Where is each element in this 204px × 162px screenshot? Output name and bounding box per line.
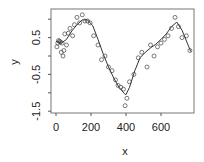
smooth-fit-line	[56, 20, 191, 95]
data-point	[125, 96, 129, 100]
data-point	[140, 50, 144, 54]
y-axis-label: y	[8, 59, 20, 65]
data-point	[61, 54, 65, 58]
data-point	[68, 26, 72, 30]
data-point	[75, 15, 79, 19]
data-point	[156, 45, 160, 49]
x-tick-label: 400	[117, 121, 135, 133]
data-point	[163, 37, 167, 41]
data-point	[100, 58, 104, 62]
data-point	[55, 45, 59, 49]
data-point	[123, 104, 127, 108]
data-point	[173, 15, 177, 19]
data-point	[71, 34, 75, 38]
x-tick-label: 200	[82, 121, 100, 133]
data-point	[72, 23, 76, 27]
data-point	[96, 43, 100, 47]
y-tick-label: 0.5	[30, 30, 42, 45]
data-point	[92, 34, 96, 38]
y-tick-label: -0.5	[30, 65, 42, 84]
data-point	[159, 41, 163, 45]
data-point	[80, 13, 84, 17]
data-point	[149, 43, 153, 47]
data-point	[152, 54, 156, 58]
y-axis: 0.5-0.5-1.5	[30, 19, 51, 120]
data-point	[166, 34, 170, 38]
x-tick-label: 600	[152, 121, 170, 133]
x-tick-label: 0	[53, 121, 59, 133]
x-axis-label: x	[122, 145, 128, 157]
data-point	[65, 43, 69, 47]
scatter-plot: 0200400600 0.5-0.5-1.5 x y	[0, 0, 204, 162]
data-point	[184, 34, 188, 38]
x-axis: 0200400600	[53, 113, 170, 133]
data-point	[180, 36, 184, 40]
data-point	[145, 65, 149, 69]
y-tick-label: -1.5	[30, 102, 42, 121]
